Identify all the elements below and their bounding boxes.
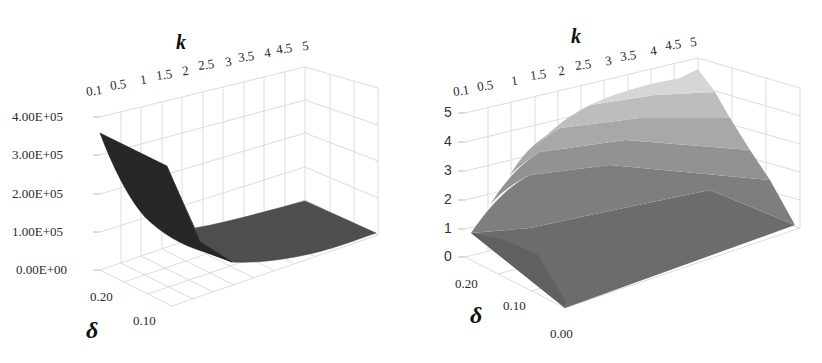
- right-k-tick: 3.5: [619, 48, 637, 63]
- right-delta-axis-title: δ: [470, 303, 482, 327]
- left-chart-plot: [0, 0, 410, 363]
- right-delta-tick: 0.10: [503, 299, 526, 312]
- right-delta-tick: 0.00: [550, 327, 573, 340]
- left-z-tick: 2.00E+05: [12, 187, 63, 200]
- right-k-tick: 1.5: [529, 67, 547, 82]
- left-k-tick: 4.5: [275, 41, 293, 56]
- right-delta-tick: 0.20: [455, 277, 478, 290]
- right-k-tick: 2.5: [574, 57, 592, 72]
- right-k-axis-title: k: [571, 26, 581, 46]
- left-k-tick: 0.1: [85, 83, 103, 98]
- left-z-tick: 0.00E+00: [16, 263, 67, 276]
- right-k-tick: 0.1: [452, 83, 470, 98]
- right-k-tick: 4: [649, 44, 657, 58]
- left-z-tick: 4.00E+05: [12, 110, 63, 123]
- right-z-tick: 1: [444, 221, 452, 235]
- right-z-tick: 0: [444, 249, 452, 263]
- left-surface-flat: [195, 201, 376, 262]
- right-z-tick: 4: [444, 134, 452, 148]
- left-delta-tick: 0.10: [133, 314, 156, 327]
- left-z-axis-ticks: [93, 117, 100, 270]
- left-k-tick: 2.5: [197, 57, 215, 72]
- right-z-tick: 2: [444, 192, 452, 206]
- left-k-tick: 0.5: [109, 77, 127, 92]
- left-k-axis-title: k: [176, 32, 186, 52]
- right-z-tick: 3: [444, 163, 452, 177]
- right-z-tick: 5: [444, 105, 452, 119]
- left-k-tick: 4: [263, 46, 271, 60]
- right-k-tick: 4.5: [664, 37, 682, 52]
- left-k-tick: 3.5: [237, 49, 255, 64]
- right-z-axis-ticks: [458, 113, 465, 257]
- right-surface-chart: k 0.1 0.5 1 1.5 2 2.5 3 3.5 4 4.5 5 5 4 …: [410, 0, 822, 363]
- right-k-tick: 0.5: [476, 78, 494, 93]
- left-z-tick: 3.00E+05: [12, 148, 63, 161]
- left-delta-axis-title: δ: [86, 318, 98, 342]
- left-delta-tick: 0.20: [90, 290, 113, 303]
- left-surface-chart: k 0.1 0.5 1 1.5 2 2.5 3 3.5 4 4.5 5 4.00…: [0, 0, 410, 363]
- left-z-tick: 1.00E+05: [12, 225, 63, 238]
- left-k-tick: 1.5: [155, 67, 173, 82]
